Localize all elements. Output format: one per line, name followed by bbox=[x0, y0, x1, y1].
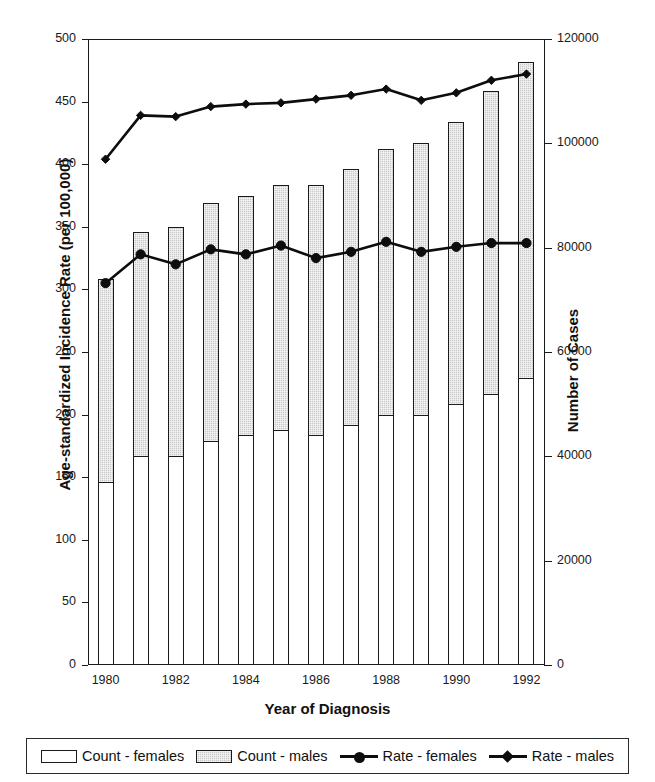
marker-diamond bbox=[171, 112, 179, 120]
marker-circle bbox=[101, 279, 110, 288]
marker-circle bbox=[382, 237, 391, 246]
y-axis-right-tick-mark bbox=[545, 143, 552, 144]
y-axis-left-tick-label: 100 bbox=[30, 532, 76, 546]
line-circle-icon bbox=[340, 749, 378, 763]
marker-circle bbox=[171, 260, 180, 269]
y-axis-left-tick-label: 0 bbox=[30, 657, 76, 671]
gray-box-icon bbox=[196, 750, 232, 763]
y-axis-left-tick-label: 450 bbox=[30, 94, 76, 108]
legend-item-count-females: Count - females bbox=[41, 748, 184, 764]
y-axis-right-tick-label: 100000 bbox=[557, 135, 627, 149]
marker-diamond bbox=[347, 91, 355, 99]
marker-circle bbox=[241, 250, 250, 259]
y-axis-left-tick-label: 150 bbox=[30, 469, 76, 483]
y-axis-right-tick-mark bbox=[545, 39, 552, 40]
x-axis-title: Year of Diagnosis bbox=[0, 700, 655, 717]
legend-label: Count - females bbox=[82, 748, 184, 764]
y-axis-right-tick-mark bbox=[545, 456, 552, 457]
x-axis-tick-label: 1986 bbox=[288, 673, 344, 687]
marker-circle bbox=[206, 245, 215, 254]
marker-circle bbox=[136, 250, 145, 259]
marker-diamond bbox=[452, 89, 460, 97]
y-axis-right-tick-label: 60000 bbox=[557, 344, 627, 358]
line-diamond-icon bbox=[489, 749, 527, 763]
x-axis-tick-label: 1988 bbox=[358, 673, 414, 687]
white-box-icon bbox=[41, 750, 77, 763]
marker-diamond bbox=[207, 102, 215, 110]
y-axis-left-tick-label: 500 bbox=[30, 31, 76, 45]
y-axis-left-tick-label: 50 bbox=[30, 594, 76, 608]
marker-diamond bbox=[312, 95, 320, 103]
marker-circle bbox=[487, 238, 496, 247]
line-series-container bbox=[88, 39, 544, 665]
y-axis-right-tick-mark bbox=[545, 665, 552, 666]
marker-diamond bbox=[242, 100, 250, 108]
y-axis-right-tick-label: 0 bbox=[557, 657, 627, 671]
legend-item-rate-males: Rate - males bbox=[489, 748, 614, 764]
y-axis-right-tick-label: 40000 bbox=[557, 448, 627, 462]
y-axis-left-tick-label: 400 bbox=[30, 156, 76, 170]
y-axis-left-tick-label: 200 bbox=[30, 407, 76, 421]
x-axis-tick-label: 1990 bbox=[428, 673, 484, 687]
y-axis-right-tick-label: 20000 bbox=[557, 553, 627, 567]
marker-diamond bbox=[382, 85, 390, 93]
y-axis-right-tick-label: 80000 bbox=[557, 240, 627, 254]
x-axis-tick-label: 1992 bbox=[498, 673, 554, 687]
y-axis-right-line bbox=[544, 39, 545, 666]
line-path-rate-males bbox=[106, 74, 527, 159]
marker-diamond bbox=[417, 96, 425, 104]
legend-item-count-males: Count - males bbox=[196, 748, 327, 764]
legend-label: Count - males bbox=[237, 748, 327, 764]
y-axis-right-tick-mark bbox=[545, 248, 552, 249]
y-axis-left-tick-label: 350 bbox=[30, 219, 76, 233]
y-axis-right-tick-mark bbox=[545, 352, 552, 353]
y-axis-right-tick-label: 120000 bbox=[557, 31, 627, 45]
y-axis-left-tick-label: 300 bbox=[30, 281, 76, 295]
x-axis-tick-label: 1980 bbox=[78, 673, 134, 687]
marker-circle bbox=[452, 242, 461, 251]
marker-diamond bbox=[277, 99, 285, 107]
legend-item-rate-females: Rate - females bbox=[340, 748, 477, 764]
marker-diamond bbox=[487, 76, 495, 84]
x-axis-tick-label: 1984 bbox=[218, 673, 274, 687]
legend-label: Rate - males bbox=[532, 748, 614, 764]
marker-circle bbox=[276, 241, 285, 250]
y-axis-right-tick-mark bbox=[545, 561, 552, 562]
y-axis-left-tick-label: 250 bbox=[30, 344, 76, 358]
x-axis-tick-label: 1982 bbox=[148, 673, 204, 687]
marker-diamond bbox=[522, 70, 530, 78]
marker-circle bbox=[346, 247, 355, 256]
y-axis-left-title: Age-standardized Incidence Rate (per 100… bbox=[56, 45, 73, 605]
plot-area bbox=[88, 39, 544, 665]
marker-circle bbox=[311, 254, 320, 263]
marker-circle bbox=[522, 238, 531, 247]
marker-circle bbox=[417, 247, 426, 256]
chart-figure: Age-standardized Incidence Rate (per 100… bbox=[0, 0, 655, 782]
chart-legend: Count - females Count - males Rate - fem… bbox=[26, 738, 629, 774]
y-axis-left-tick-mark bbox=[82, 665, 88, 666]
legend-label: Rate - females bbox=[383, 748, 477, 764]
